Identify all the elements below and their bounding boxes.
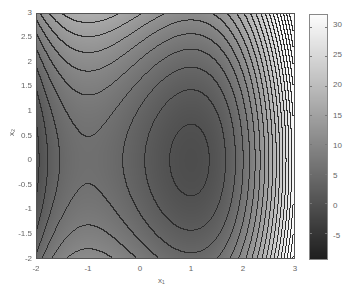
colorbar-gradient (310, 15, 327, 259)
y-tick: 2.5 (10, 32, 32, 41)
y-tick: -2 (10, 254, 32, 263)
x-tick: 1 (181, 264, 201, 273)
colorbar-tick: -5 (333, 231, 340, 240)
x-tick: 3 (285, 264, 305, 273)
y-tick: 1 (10, 106, 32, 115)
colorbar-tick: 25 (333, 50, 342, 59)
colorbar-tick: 5 (333, 171, 337, 180)
x-tick: 2 (233, 264, 253, 273)
colorbar-tick: 30 (333, 20, 342, 29)
colorbar-tick: 0 (333, 201, 337, 210)
contour-plot-area (36, 13, 295, 259)
colorbar-tick: 10 (333, 141, 342, 150)
y-tick: 1.5 (10, 81, 32, 90)
colorbar-tick: 20 (333, 80, 342, 89)
x-tick: -2 (26, 264, 46, 273)
y-tick: -0.5 (10, 180, 32, 189)
contour-canvas (37, 14, 294, 258)
y-tick: 3 (10, 8, 32, 17)
x-tick: -1 (78, 264, 98, 273)
colorbar (309, 14, 328, 260)
y-axis-label: x₂ (7, 129, 16, 136)
y-tick: 0 (10, 155, 32, 164)
x-axis-label: x₁ (158, 276, 165, 285)
y-tick: -1 (10, 204, 32, 213)
x-tick: 0 (130, 264, 150, 273)
colorbar-tick: 15 (333, 111, 342, 120)
y-tick: -1.5 (10, 229, 32, 238)
y-tick: 2 (10, 57, 32, 66)
